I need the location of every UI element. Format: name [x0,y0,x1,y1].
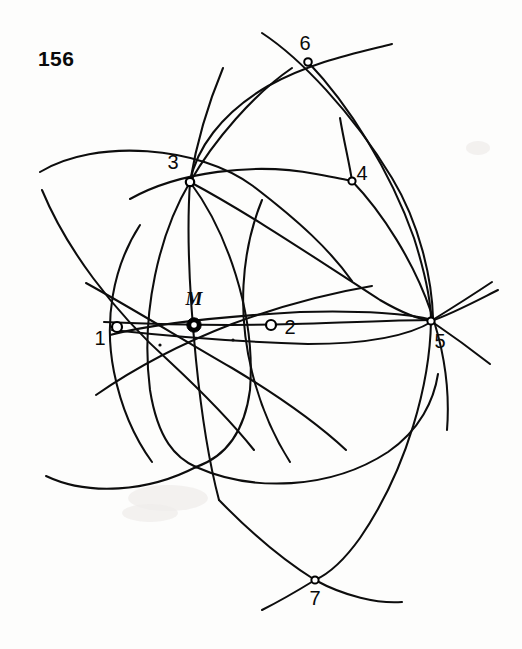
construction-arc [315,580,402,602]
construction-arc [308,62,431,321]
point-marker-1 [112,322,122,332]
construction-arc [315,321,431,580]
intersection-node [194,465,197,468]
construction-arc [431,290,498,321]
point-marker-3 [186,178,194,186]
intersection-node [231,338,234,341]
construction-arc [243,200,290,462]
intersection-node [158,343,161,346]
point-marker-7 [311,576,318,583]
construction-arc [340,118,352,181]
construction-arc [431,282,492,321]
point-marker-2 [266,320,276,330]
construction-diagram: 1234567M 156 [0,0,522,649]
construction-arc [190,68,292,182]
construction-arc [110,225,152,462]
point-label-7: 7 [309,587,320,609]
point-label-6: 6 [299,32,310,54]
point-marker-5 [427,317,434,324]
figure-number: 156 [38,47,74,70]
point-marker-4 [348,177,355,184]
point-label-1: 1 [94,327,105,349]
point-label-5: 5 [434,330,445,352]
point-marker-center-hole [191,322,196,327]
construction-arc [130,169,352,199]
construction-arc [196,374,438,484]
point-label-4: 4 [356,162,367,184]
construction-arc [262,580,315,610]
point-label-2: 2 [284,316,295,338]
point-marker-6 [304,58,312,66]
point-label-3: 3 [167,151,178,173]
point-label-m: M [185,288,204,309]
construction-arc [86,283,346,450]
figure-container: 1234567M 156 [0,0,522,649]
construction-arc [219,500,315,580]
construction-arc [190,182,433,321]
